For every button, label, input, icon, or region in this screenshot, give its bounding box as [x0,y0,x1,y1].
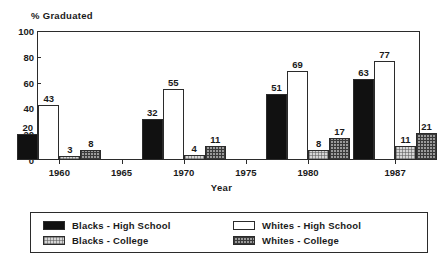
legend-swatch-white-col-icon [233,236,255,245]
bar-value-white-hs-1987: 77 [379,49,390,60]
bar-white-col-1980[interactable] [329,138,350,160]
legend-item-black-hs[interactable]: Blacks - High School [43,220,171,231]
bar-black-hs-1980[interactable] [266,94,287,160]
bar-black-col-1987[interactable] [395,146,416,160]
bar-value-black-col-1970: 4 [192,143,197,154]
x-tick-label-1980: 1980 [298,167,319,178]
x-tick-label-1970: 1970 [173,167,194,178]
legend-item-black-col[interactable]: Blacks - College [43,235,149,246]
x-tick-mark-1965 [122,160,123,164]
y-tick-label-100: 100 [6,26,34,37]
bar-white-col-1987[interactable] [416,133,437,160]
x-tick-mark-1960 [59,160,60,164]
y-tick-mark-60 [37,83,41,84]
legend-swatch-white-hs-icon [233,221,255,230]
bar-white-hs-1960[interactable] [38,105,59,160]
x-axis-title: Year [0,182,443,193]
bar-white-hs-1980[interactable] [287,71,308,160]
bar-value-white-col-1960: 8 [88,138,93,149]
x-tick-mark-1987 [395,160,396,164]
x-tick-mark-1980 [308,160,309,164]
bar-value-black-col-1980: 8 [316,138,321,149]
bar-value-black-hs-1960: 20 [23,122,34,133]
bar-white-col-1970[interactable] [205,146,226,160]
bar-value-black-col-1987: 11 [401,134,411,145]
bar-value-white-col-1980: 17 [334,126,345,137]
legend-label: Blacks - High School [72,220,171,231]
legend-item-white-hs[interactable]: Whites - High School [233,220,361,231]
y-tick-label-40: 40 [6,103,34,114]
x-tick-mark-1975 [246,160,247,164]
bar-value-black-hs-1987: 63 [358,67,369,78]
x-tick-label-1965: 1965 [111,167,132,178]
chart-legend: Blacks - High SchoolBlacks - CollegeWhit… [30,212,428,253]
y-tick-label-80: 80 [6,51,34,62]
bar-value-white-hs-1980: 69 [292,59,303,70]
bar-value-white-col-1970: 11 [210,134,220,145]
bar-value-white-col-1987: 21 [421,121,432,132]
bar-black-hs-1960[interactable] [17,134,38,160]
x-tick-label-1960: 1960 [49,167,70,178]
bar-value-black-hs-1970: 32 [147,107,158,118]
legend-swatch-black-hs-icon [43,221,65,230]
x-tick-label-1987: 1987 [385,167,406,178]
bar-black-col-1980[interactable] [308,150,329,160]
legend-item-white-col[interactable]: Whites - College [233,235,339,246]
bar-value-white-hs-1960: 43 [44,93,55,104]
bar-black-hs-1970[interactable] [142,119,163,160]
bar-white-hs-1987[interactable] [374,61,395,160]
x-tick-mark-1970 [184,160,185,164]
bar-value-black-hs-1980: 51 [271,82,282,93]
bar-value-white-hs-1970: 55 [168,77,179,88]
bar-white-col-1960[interactable] [80,150,101,160]
y-tick-mark-80 [37,57,41,58]
legend-swatch-black-col-icon [43,236,65,245]
bar-white-hs-1970[interactable] [163,89,184,160]
legend-label: Whites - High School [262,220,361,231]
bar-value-black-col-1960: 3 [67,144,72,155]
bar-black-col-1970[interactable] [184,155,205,160]
y-axis-title: % Graduated [31,10,93,21]
legend-label: Blacks - College [72,235,149,246]
y-tick-label-60: 60 [6,77,34,88]
legend-label: Whites - College [262,235,339,246]
bar-black-hs-1987[interactable] [353,79,374,160]
x-tick-label-1975: 1975 [235,167,256,178]
bar-black-col-1960[interactable] [59,156,80,160]
